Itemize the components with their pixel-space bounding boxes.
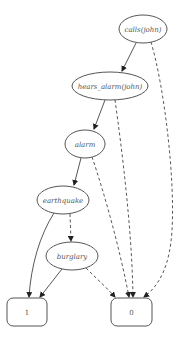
node-label: burglary <box>57 253 89 261</box>
node-label: hears_alarm(john) <box>78 83 143 91</box>
terminal-label: 1 <box>25 309 29 317</box>
edge-calls-to-hears-alarm <box>122 43 136 71</box>
edge-hears-alarm-to-zero <box>115 100 133 297</box>
node-burglary: burglary <box>46 242 98 270</box>
terminal-label: 0 <box>129 309 133 317</box>
edge-earthquake-to-burglary <box>70 214 71 241</box>
bdd-diagram: calls(john) hears_alarm(john) alarm eart… <box>0 0 189 343</box>
node-label: earthquake <box>43 197 84 205</box>
edge-alarm-to-zero <box>92 157 129 297</box>
node-alarm: alarm <box>65 130 105 158</box>
node-earthquake: earthquake <box>37 186 89 214</box>
terminal-zero: 0 <box>111 298 152 326</box>
edge-burglary-to-one <box>40 269 62 297</box>
node-hears-alarm-john: hears_alarm(john) <box>72 72 148 100</box>
edge-burglary-to-zero <box>86 268 115 297</box>
terminal-one: 1 <box>7 298 47 326</box>
edge-alarm-to-earthquake <box>74 158 81 185</box>
node-label: calls(john) <box>124 26 161 34</box>
edge-hears-alarm-to-alarm <box>94 100 105 129</box>
node-label: alarm <box>75 141 96 149</box>
edge-calls-to-zero <box>144 42 173 297</box>
node-calls-john: calls(john) <box>119 15 167 43</box>
